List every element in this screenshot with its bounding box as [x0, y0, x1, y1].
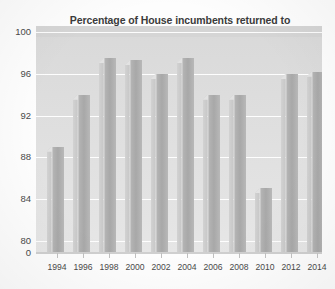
- y-axis-label-0: 0: [26, 248, 31, 258]
- x-axis-label-2004: 2004: [177, 262, 196, 272]
- x-axis-tick-1994: [57, 253, 58, 258]
- x-axis-tick-2006: [213, 253, 214, 258]
- x-axis-tick-1996: [83, 253, 84, 258]
- bar-front-face: [104, 58, 116, 253]
- x-axis-label-2010: 2010: [255, 262, 274, 272]
- x-axis-tick-2004: [187, 253, 188, 258]
- y-axis-labels: 10096928884800: [0, 0, 34, 289]
- bar-1994: [52, 147, 63, 253]
- y-axis-label-88: 88: [20, 152, 31, 162]
- x-axis-tick-2012: [291, 253, 292, 258]
- bar-2002: [156, 74, 167, 253]
- bar-front-face: [156, 74, 168, 253]
- x-axis-tick-2000: [135, 253, 136, 258]
- bar-front-face: [312, 72, 323, 253]
- bars: [36, 26, 322, 253]
- bar-2000: [130, 60, 141, 253]
- x-axis-label-2014: 2014: [307, 262, 326, 272]
- bar-front-face: [234, 95, 246, 253]
- x-axis-label-2012: 2012: [281, 262, 300, 272]
- bar-front-face: [286, 74, 298, 253]
- y-axis-label-84: 84: [20, 194, 31, 204]
- x-axis-tick-2014: [317, 253, 318, 258]
- y-axis-label-100: 100: [15, 27, 31, 37]
- bar-front-face: [208, 95, 220, 253]
- x-axis-tick-2008: [239, 253, 240, 258]
- bar-front-face: [52, 147, 64, 253]
- bar-front-face: [78, 95, 90, 253]
- x-axis-label-2006: 2006: [203, 262, 222, 272]
- plot-area: [36, 26, 322, 253]
- bar-front-face: [130, 60, 142, 253]
- bar-front-face: [260, 188, 272, 253]
- x-axis-label-2008: 2008: [229, 262, 248, 272]
- x-axis-label-2000: 2000: [125, 262, 144, 272]
- bar-2014: [312, 72, 323, 253]
- bar-2006: [208, 95, 219, 253]
- bar-2012: [286, 74, 297, 253]
- bar-2004: [182, 58, 193, 253]
- x-axis-tick-1998: [109, 253, 110, 258]
- bar-front-face: [182, 58, 194, 253]
- bar-1998: [104, 58, 115, 253]
- x-axis-label-2002: 2002: [151, 262, 170, 272]
- x-axis-line: [36, 252, 322, 254]
- bar-chart: Percentage of House incumbents returned …: [0, 0, 335, 289]
- y-axis-label-80: 80: [20, 236, 31, 246]
- x-axis-tick-2010: [265, 253, 266, 258]
- chart-title-line-1: Percentage of House incumbents returned …: [70, 14, 290, 26]
- x-axis-label-1994: 1994: [47, 262, 66, 272]
- bar-2008: [234, 95, 245, 253]
- bar-1996: [78, 95, 89, 253]
- x-axis-label-1996: 1996: [73, 262, 92, 272]
- x-axis-labels: 1994199619982000200220042006200820102012…: [36, 262, 322, 280]
- y-axis-label-96: 96: [20, 69, 31, 79]
- y-axis-label-92: 92: [20, 111, 31, 121]
- x-axis-label-1998: 1998: [99, 262, 118, 272]
- x-axis-tick-2002: [161, 253, 162, 258]
- bar-2010: [260, 188, 271, 253]
